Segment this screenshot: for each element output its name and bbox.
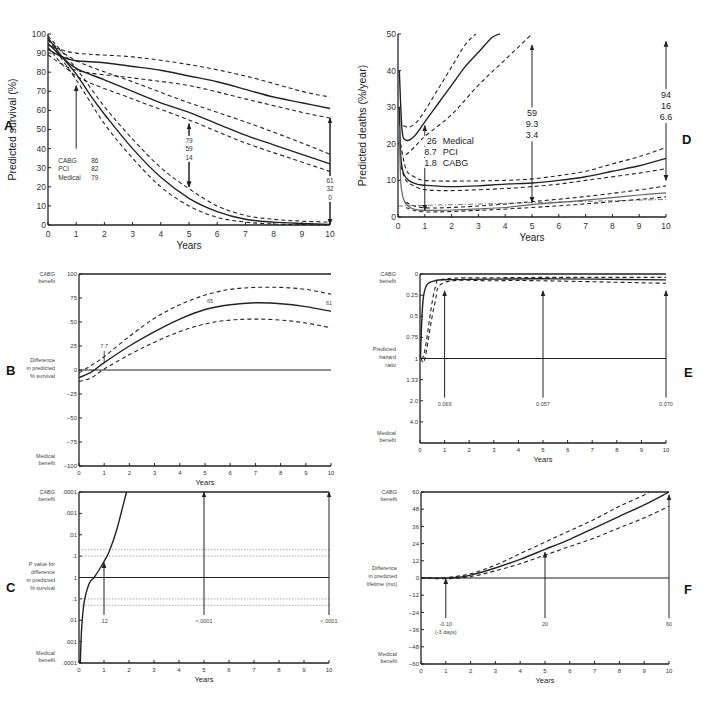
annotation-label: CABG (443, 158, 469, 168)
annotation-value: 94 (661, 90, 671, 100)
panel-d: 012345678910Years01020304050Predicted de… (356, 29, 691, 243)
annotation-value: 0 (328, 194, 332, 201)
x-tick-label: 1 (74, 229, 79, 239)
x-tick-label: 5 (530, 221, 535, 231)
y-tick-label: 24 (412, 541, 419, 547)
x-tick-label: 1 (443, 447, 447, 453)
x-axis-title: Years (176, 240, 201, 251)
x-tick-label: 8 (615, 447, 619, 453)
panel-label: E (684, 365, 693, 380)
x-tick-label: 10 (325, 229, 335, 239)
annotation-value: 0.070 (659, 401, 673, 407)
x-tick-label: 9 (643, 668, 647, 674)
y-tick-label: 20 (387, 139, 397, 149)
x-tick-label: 8 (271, 229, 276, 239)
x-tick-label: 7 (252, 667, 256, 673)
x-tick-label: 6 (215, 229, 220, 239)
y-tick-label: 4.0 (410, 419, 419, 425)
annotation-label: Medical (58, 174, 81, 181)
y-bottom-label: benefit (38, 460, 55, 466)
y-tick-label: 30 (387, 102, 397, 112)
annotation-label: CABG (58, 157, 76, 164)
y-bottom-label: benefit (380, 658, 397, 664)
x-tick-label: 5 (541, 447, 545, 453)
y-tick-label: .1 (72, 596, 78, 602)
annotation-value: 61 (326, 300, 332, 306)
annotation-value: <.0001 (321, 618, 338, 624)
x-tick-label: 6 (227, 667, 231, 673)
x-tick-label: 4 (178, 470, 182, 476)
series-cabg (48, 49, 330, 108)
y-tick-label: 10 (387, 175, 397, 185)
x-tick-label: 10 (326, 667, 333, 673)
x-tick-label: 3 (130, 229, 135, 239)
x-tick-label: 3 (476, 221, 481, 231)
x-tick-label: 5 (203, 470, 207, 476)
y-tick-label: −60 (409, 661, 420, 667)
x-tick-label: 7 (591, 447, 595, 453)
x-tick-label: 7 (254, 470, 258, 476)
panel-a: 012345678910Years0102030405060708090100P… (4, 29, 336, 251)
y-tick-label: .0001 (62, 660, 78, 666)
y-top-label: CABG (39, 489, 55, 495)
x-axis-title: Years (534, 455, 553, 464)
y-bottom-label: benefit (38, 657, 55, 663)
series-upper-ci (421, 492, 649, 578)
y-axis-title: Difference (372, 565, 397, 571)
y-tick-label: −48 (409, 644, 420, 650)
y-axis-title: Difference (30, 357, 55, 363)
x-tick-label: 10 (663, 447, 670, 453)
x-tick-label: 9 (637, 221, 642, 231)
y-tick-label: 90 (37, 48, 47, 58)
x-tick-label: 8 (279, 470, 283, 476)
y-axis-title: lifetime (mo) (367, 581, 397, 587)
annotation-sublabel: (-3 days) (435, 629, 457, 635)
panel-label: C (6, 580, 16, 595)
y-axis-title: P value for (29, 561, 55, 567)
x-tick-label: 0 (46, 229, 51, 239)
y-tick-label: −100 (63, 463, 77, 469)
x-tick-label: 9 (304, 470, 308, 476)
annotation-value: 61 (326, 177, 334, 184)
x-tick-label: 5 (187, 229, 192, 239)
y-tick-label: −75 (67, 439, 78, 445)
y-top-label: benefit (38, 278, 55, 284)
y-tick-label: 36 (412, 524, 419, 530)
y-axis-title: ratio (385, 362, 396, 368)
x-tick-label: 0 (77, 470, 81, 476)
y-top-label: benefit (379, 278, 396, 284)
series-medical-upper-ci (403, 34, 475, 127)
panel-label: A (4, 118, 14, 133)
x-tick-label: 7 (583, 221, 588, 231)
annotation-value: 65 (207, 298, 213, 304)
y-axis-title: in predicted (369, 573, 397, 579)
y-tick-label: 75 (70, 295, 77, 301)
series-pci-upper-ci (401, 144, 666, 181)
x-tick-label: 1 (444, 668, 448, 674)
annotation-value: 82 (91, 165, 99, 172)
y-tick-label: 48 (412, 506, 419, 512)
x-tick-label: 3 (152, 667, 156, 673)
annotation-value: 0.057 (536, 401, 550, 407)
y-tick-label: 0.75 (406, 334, 418, 340)
annotation-value: 16 (661, 101, 671, 111)
panel-c: 012345678910Years.0001.001.01.11.1.01.00… (6, 489, 337, 684)
x-tick-label: 10 (328, 470, 335, 476)
y-top-label: CABG (39, 271, 55, 277)
series-pci-lower-ci (401, 166, 666, 191)
annotation-value: 14 (185, 154, 193, 161)
annotation-value: 6.6 (660, 112, 673, 122)
annotation-value: 79 (185, 137, 193, 144)
series-upper-ci (79, 287, 331, 373)
y-bottom-label: Medical (378, 651, 397, 657)
x-tick-label: 9 (640, 447, 644, 453)
panel-label: F (684, 582, 692, 597)
x-tick-label: 2 (127, 667, 131, 673)
y-tick-label: .01 (69, 532, 78, 538)
x-tick-label: 7 (243, 229, 248, 239)
x-tick-label: 8 (618, 668, 622, 674)
x-tick-label: 10 (661, 221, 671, 231)
x-tick-label: 4 (177, 667, 181, 673)
figure-caption (110, 690, 610, 700)
y-axis-title: % survival (30, 585, 55, 591)
